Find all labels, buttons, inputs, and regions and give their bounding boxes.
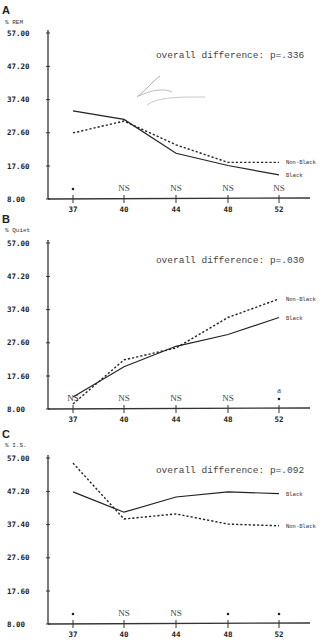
legend-label: Black	[286, 172, 303, 178]
y-tick-label: 8.00	[7, 195, 26, 204]
significance-star	[278, 398, 281, 401]
chart-a: 57.0047.2037.4027.6017.608.003740NS44NS4…	[0, 0, 326, 210]
significance-star	[278, 613, 281, 616]
y-tick-label: 17.60	[7, 372, 30, 381]
x-tick-label: 48	[223, 630, 233, 639]
x-tick-label: 37	[68, 630, 77, 639]
y-tick-label: 17.60	[7, 162, 30, 171]
x-tick-label: 40	[119, 415, 129, 424]
significance-label: NS	[222, 393, 234, 403]
significance-label: NS	[118, 393, 130, 403]
y-tick-label: 47.20	[7, 62, 30, 71]
x-tick-label: 52	[274, 630, 283, 639]
significance-star	[72, 188, 75, 191]
chart-b: 57.0047.2037.4027.6017.608.0037NS40NS44N…	[0, 210, 326, 425]
chart-c: 57.0047.2037.4027.6017.608.003740NS44NS4…	[0, 425, 326, 644]
significance-label: NS	[170, 183, 182, 193]
significance-label: NS	[222, 183, 234, 193]
x-tick-label: 48	[223, 415, 233, 424]
legend-label: Non-Black	[286, 523, 316, 529]
series-black-line	[73, 111, 279, 175]
y-tick-label: 57.00	[7, 454, 30, 463]
significance-label: NS	[170, 393, 182, 403]
y-tick-label: 8.00	[7, 620, 26, 629]
significance-label: NS	[170, 608, 182, 618]
x-tick-label: 40	[119, 630, 129, 639]
overall-difference-annotation: overall difference: p=.030	[156, 255, 305, 266]
y-tick-label: 47.20	[7, 272, 30, 281]
y-tick-label: 27.60	[7, 128, 30, 137]
panel-b: B % Quiet 57.0047.2037.4027.6017.608.003…	[0, 210, 326, 425]
y-tick-label: 37.40	[7, 305, 30, 314]
panel-c: C % I.S. 57.0047.2037.4027.6017.608.0037…	[0, 425, 326, 644]
y-tick-label: 37.40	[7, 520, 30, 529]
panel-a: A % REM 57.0047.2037.4027.6017.608.00374…	[0, 0, 326, 210]
x-tick-label: 52	[274, 415, 283, 424]
series-black-line	[73, 492, 279, 512]
legend-label: Black	[286, 491, 303, 497]
y-tick-label: 47.20	[7, 487, 30, 496]
legend-label: Non-Black	[286, 159, 316, 165]
x-axis	[48, 198, 310, 199]
y-tick-label: 17.60	[7, 587, 30, 596]
y-tick-label: 57.00	[7, 239, 30, 248]
overall-difference-annotation: overall difference: p=.336	[156, 50, 305, 61]
x-tick-label: 44	[171, 415, 181, 424]
x-tick-label: 37	[68, 415, 77, 424]
x-tick-label: 44	[171, 630, 181, 639]
series-non-black-line	[73, 299, 279, 404]
series-non-black-line	[73, 121, 279, 162]
significance-star	[72, 613, 75, 616]
significance-note: a	[277, 385, 281, 395]
series-black-line	[73, 318, 279, 398]
y-tick-label: 57.00	[7, 29, 30, 38]
significance-label: NS	[118, 608, 130, 618]
x-axis	[48, 623, 310, 624]
y-tick-label: 27.60	[7, 338, 30, 347]
overall-difference-annotation: overall difference: p=.092	[156, 465, 305, 476]
y-tick-label: 8.00	[7, 405, 26, 414]
y-tick-label: 27.60	[7, 553, 30, 562]
pen-mark	[137, 76, 160, 97]
legend-label: Non-Black	[286, 296, 316, 302]
significance-label: NS	[118, 183, 130, 193]
significance-star	[227, 613, 230, 616]
pen-mark	[147, 97, 205, 105]
x-axis	[48, 408, 310, 409]
significance-label: NS	[273, 183, 285, 193]
y-tick-label: 37.40	[7, 95, 30, 104]
legend-label: Black	[286, 315, 303, 321]
